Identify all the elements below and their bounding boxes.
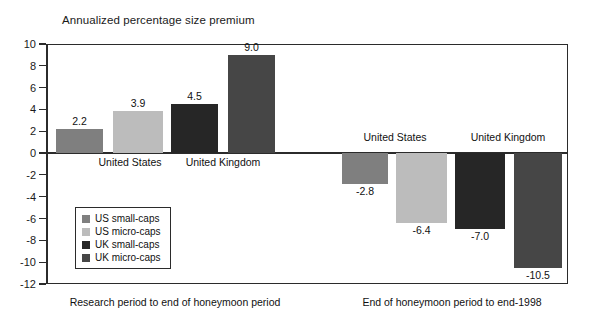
y-axis-tick bbox=[39, 65, 46, 66]
legend-label: US small-caps bbox=[95, 212, 159, 225]
y-axis-line bbox=[46, 44, 47, 284]
y-axis-label: -6 bbox=[0, 213, 36, 225]
y-axis-tick bbox=[39, 152, 46, 153]
y-axis-label: 4 bbox=[0, 103, 36, 115]
y-axis-label: 0 bbox=[0, 147, 36, 159]
y-axis-label: 8 bbox=[0, 60, 36, 72]
y-axis-label: 6 bbox=[0, 82, 36, 94]
chart-title: Annualized percentage size premium bbox=[62, 14, 255, 26]
bar-value-label: 2.2 bbox=[72, 115, 87, 127]
legend-label: UK micro-caps bbox=[95, 251, 161, 264]
bar-value-label: 4.5 bbox=[187, 90, 202, 102]
legend: US small-caps US micro-caps UK small-cap… bbox=[75, 207, 171, 269]
group-label-right-uk: United Kingdom bbox=[471, 131, 546, 143]
y-axis-tick bbox=[39, 196, 46, 197]
legend-item: UK small-caps bbox=[82, 238, 164, 251]
bar-value-label: -6.4 bbox=[412, 224, 430, 236]
legend-item: US small-caps bbox=[82, 212, 164, 225]
bar-value-label: -2.8 bbox=[356, 185, 374, 197]
y-axis-tick bbox=[39, 87, 46, 88]
y-axis-label: -10 bbox=[0, 256, 36, 268]
group-label-left-uk: United Kingdom bbox=[186, 156, 261, 168]
legend-swatch-us-micro-caps bbox=[82, 228, 90, 236]
caption-right-panel: End of honeymoon period to end-1998 bbox=[362, 296, 541, 308]
y-axis-label: -2 bbox=[0, 169, 36, 181]
y-axis-label: -12 bbox=[0, 278, 36, 290]
bar-right-us-small-caps bbox=[342, 153, 388, 184]
legend-label: US micro-caps bbox=[95, 225, 161, 238]
y-axis-tick bbox=[39, 218, 46, 219]
y-axis-tick bbox=[39, 240, 46, 241]
bar-right-uk-small-caps bbox=[455, 153, 505, 229]
bar-right-us-micro-caps bbox=[396, 153, 447, 223]
legend-swatch-us-small-caps bbox=[82, 215, 90, 223]
legend-label: UK small-caps bbox=[95, 238, 159, 251]
caption-left-panel: Research period to end of honeymoon peri… bbox=[70, 296, 281, 308]
legend-swatch-uk-micro-caps bbox=[82, 254, 90, 262]
y-axis-label: 2 bbox=[0, 125, 36, 137]
y-axis-tick bbox=[39, 131, 46, 132]
legend-item: UK micro-caps bbox=[82, 251, 164, 264]
y-axis-tick bbox=[39, 43, 46, 44]
bar-right-uk-micro-caps bbox=[514, 153, 562, 268]
y-axis-label: 10 bbox=[0, 38, 36, 50]
bar-value-label: 3.9 bbox=[131, 97, 146, 109]
y-axis-label: -4 bbox=[0, 191, 36, 203]
y-axis-tick bbox=[39, 109, 46, 110]
bar-value-label: -7.0 bbox=[471, 230, 489, 242]
bar-left-us-micro-caps bbox=[113, 111, 163, 154]
legend-item: US micro-caps bbox=[82, 225, 164, 238]
bar-left-uk-small-caps bbox=[171, 104, 218, 153]
y-axis-label: -8 bbox=[0, 234, 36, 246]
bar-left-uk-micro-caps bbox=[228, 55, 275, 153]
size-premium-bar-chart: Annualized percentage size premium 10864… bbox=[0, 0, 600, 328]
y-axis-tick bbox=[39, 283, 46, 284]
group-label-right-us: United States bbox=[363, 131, 426, 143]
bar-left-us-small-caps bbox=[56, 129, 103, 153]
bar-value-label: -10.5 bbox=[526, 269, 550, 281]
y-axis-tick bbox=[39, 174, 46, 175]
legend-swatch-uk-small-caps bbox=[82, 241, 90, 249]
group-label-left-us: United States bbox=[98, 156, 161, 168]
y-axis-tick bbox=[39, 262, 46, 263]
bar-value-label: 9.0 bbox=[244, 41, 259, 53]
